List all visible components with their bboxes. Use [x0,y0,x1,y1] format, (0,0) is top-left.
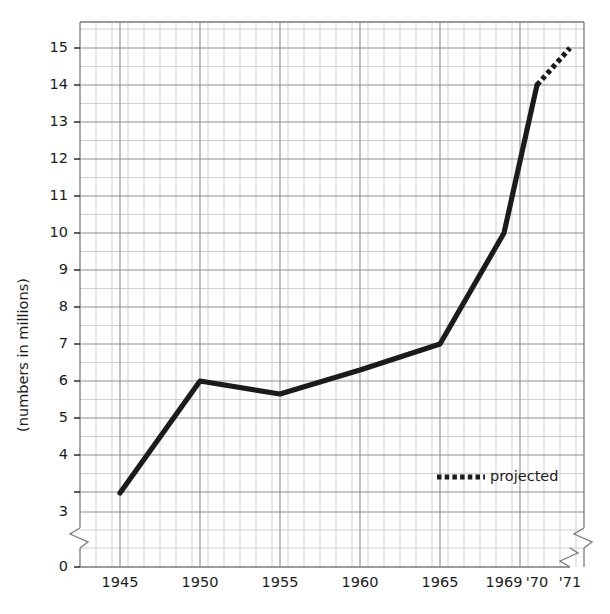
y-tick-label-14: 14 [50,76,68,92]
y-tick-label-4: 4 [59,446,68,462]
y-axis-title: (numbers in millions) [15,278,31,432]
x-tick-label-1960: 1960 [342,574,379,590]
y-tick-label-0: 0 [59,558,68,574]
x-tick-label-1955: 1955 [262,574,299,590]
y-tick-label-12: 12 [50,150,68,166]
x-tick-label-1950: 1950 [182,574,219,590]
x-tick-label-1945: 1945 [102,574,139,590]
y-tick-label-7: 7 [59,335,68,351]
legend-label-projected: projected [490,468,558,484]
x-tick-label-1969: 1969 [486,574,523,590]
y-tick-label-9: 9 [59,261,68,277]
x-tick-label-1971: '71 [559,574,581,590]
y-tick-label-11: 11 [50,187,68,203]
x-tick-label-1965: 1965 [422,574,459,590]
y-tick-label-6: 6 [59,372,68,388]
y-tick-label-5: 5 [59,409,68,425]
line-chart: 15 14 13 12 11 10 9 8 7 6 5 4 3 0 1945 1… [0,0,610,614]
y-tick-label-15: 15 [50,39,68,55]
y-tick-label-3: 3 [59,503,68,519]
chart-canvas: 15 14 13 12 11 10 9 8 7 6 5 4 3 0 1945 1… [0,0,610,614]
x-tick-label-1970: '70 [526,574,548,590]
y-tick-label-8: 8 [59,298,68,314]
y-tick-label-13: 13 [50,113,68,129]
y-tick-label-10: 10 [50,224,68,240]
